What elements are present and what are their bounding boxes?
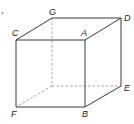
label-g: G <box>49 7 56 17</box>
label-b: B <box>82 109 88 119</box>
top-face <box>16 18 121 40</box>
label-e: E <box>124 83 131 93</box>
cube-diagram: G D C A E F B <box>0 0 134 124</box>
hidden-edge-depth <box>16 86 52 107</box>
label-d: D <box>124 13 131 23</box>
label-c: C <box>12 28 19 38</box>
front-face <box>16 40 85 107</box>
label-f: F <box>11 109 17 119</box>
label-a: A <box>80 28 87 38</box>
right-face <box>85 18 121 107</box>
dot-marker <box>2 12 4 14</box>
